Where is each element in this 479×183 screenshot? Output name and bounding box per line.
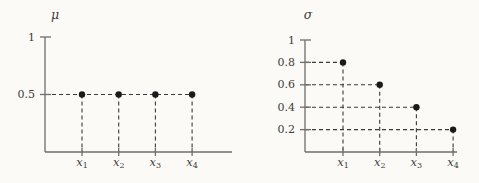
y-tick-label: 0.2 xyxy=(278,123,296,136)
x-tick-label: x3 xyxy=(411,155,423,170)
y-tick-label: 1 xyxy=(288,34,295,47)
data-point xyxy=(450,126,456,132)
data-point xyxy=(79,91,85,97)
axis-title: μ xyxy=(51,7,59,22)
y-tick-label: 0.4 xyxy=(278,101,296,114)
data-point xyxy=(340,59,346,65)
y-tick-label: 0.6 xyxy=(278,78,296,91)
two-panel-scatter-figure: 10.5x1x2x3x4μ10.80.60.40.2x1x2x3x4σ xyxy=(0,0,479,183)
data-point xyxy=(413,104,419,110)
x-tick-label: x4 xyxy=(186,155,198,170)
x-tick-label: x1 xyxy=(76,155,88,170)
x-tick-label: x2 xyxy=(113,155,125,170)
y-tick-label: 1 xyxy=(28,31,35,44)
data-point xyxy=(377,82,383,88)
x-tick-label: x4 xyxy=(447,155,459,170)
x-tick-label: x3 xyxy=(150,155,162,170)
sigma-plot: 10.80.60.40.2x1x2x3x4σ xyxy=(278,7,459,170)
axis-title: σ xyxy=(304,7,313,22)
x-tick-label: x2 xyxy=(374,155,386,170)
y-tick-label: 0.8 xyxy=(278,56,296,69)
data-point xyxy=(152,91,158,97)
data-point xyxy=(116,91,122,97)
y-tick-label: 0.5 xyxy=(18,88,36,101)
mu-plot: 10.5x1x2x3x4μ xyxy=(18,7,233,170)
x-tick-label: x1 xyxy=(337,155,349,170)
plots-canvas: 10.5x1x2x3x4μ10.80.60.40.2x1x2x3x4σ xyxy=(0,0,479,183)
data-point xyxy=(189,91,195,97)
